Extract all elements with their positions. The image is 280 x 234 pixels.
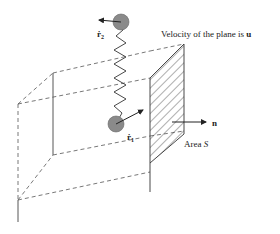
box-top-left-edge: [18, 73, 53, 104]
box-bottom-left-edge: [18, 155, 53, 200]
box-bottom-front-edge: [18, 172, 150, 200]
box-bottom-back-edge: [53, 136, 150, 155]
r1-label: ṙ1: [127, 132, 134, 143]
hatched-region: [150, 44, 184, 163]
diagram-canvas: ṙ2 ṙ1 n Area S Velocity of the plane is …: [0, 0, 280, 234]
spring: [114, 24, 126, 120]
area-label: Area S: [184, 139, 209, 149]
box-top-front-edge: [18, 78, 150, 104]
velocity-label: Velocity of the plane is u: [161, 29, 251, 39]
normal-label: n: [212, 118, 217, 128]
box-top-back-edge: [53, 51, 150, 73]
area-s-plane: [150, 44, 184, 192]
r2-label: ṙ2: [97, 29, 104, 40]
